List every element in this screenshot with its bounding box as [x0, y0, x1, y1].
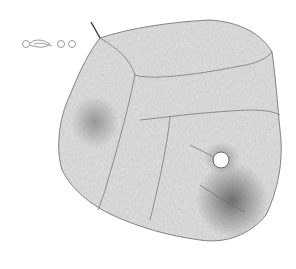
- leaf-stem: [91, 22, 100, 38]
- leaf-drawing: [0, 0, 296, 269]
- leaf-sketch-canvas: [0, 0, 296, 269]
- leaf-hole: [213, 152, 229, 168]
- chain-doodle: [23, 40, 76, 47]
